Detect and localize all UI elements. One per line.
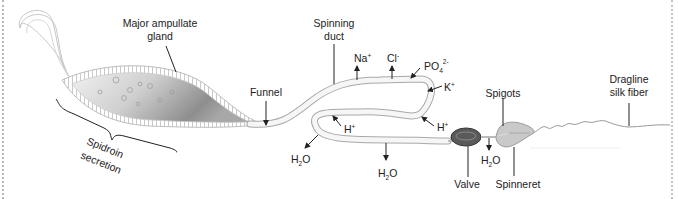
label-major-ampullate-gland: Major ampullate [123,17,198,29]
diagram-frame: Major ampullate gland Spidroin secretion… [0,0,678,199]
silk-apparatus-diagram: Major ampullate gland Spidroin secretion… [0,0,678,199]
svg-text:H2O: H2O [291,153,310,167]
ion-h-left: H+ [333,116,356,135]
ion-h-right: H+ [422,117,449,133]
ion-po4: PO42- [411,58,449,78]
spinneret [496,122,534,147]
svg-text:K+: K+ [444,81,455,93]
label-duct: duct [324,30,344,42]
label-silk-fiber: silk fiber [610,86,649,98]
ion-na: Na+ [354,52,371,80]
svg-text:H+: H+ [437,121,449,133]
svg-text:PO42-: PO42- [424,58,449,74]
label-spinneret: Spinneret [496,178,541,190]
left-dotted-border [2,0,6,199]
label-dragline: Dragline [609,73,648,85]
major-ampullate-gland [62,46,262,127]
svg-text:H2O: H2O [481,154,500,168]
svg-text:Na+: Na+ [354,52,371,64]
ion-cl: Cl- [387,52,399,79]
label-valve: Valve [454,178,480,190]
label-funnel: Funnel [250,86,282,98]
label-gland: gland [147,30,173,42]
svg-text:H2O: H2O [378,167,397,181]
water-out-left: H2O [291,135,318,167]
dragline-silk-fiber [530,121,670,148]
right-dotted-border [671,0,675,199]
gland-tail [19,10,74,82]
svg-text:Cl-: Cl- [387,52,399,64]
svg-text:H+: H+ [344,123,356,135]
label-spinning: Spinning [314,17,355,29]
water-out-middle: H2O [378,143,397,181]
label-spigots: Spigots [485,87,520,99]
